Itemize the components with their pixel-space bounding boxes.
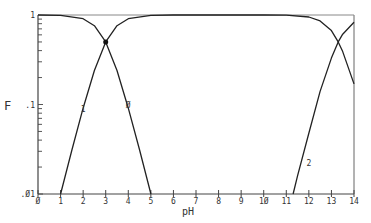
x-axis-title: pH xyxy=(182,206,194,217)
markers xyxy=(103,39,108,44)
x-tick-label: 1Ø xyxy=(259,196,269,206)
curve-label: 2 xyxy=(306,159,311,168)
curve-2 xyxy=(293,22,354,194)
y-tick-labels: .Ø1.11 xyxy=(21,11,36,199)
curve-label: Ø xyxy=(126,100,131,110)
y-axis-title: F xyxy=(4,99,11,113)
x-tick-label: 5 xyxy=(148,197,153,206)
x-tick-label: 3 xyxy=(103,197,108,206)
curve-labels: Ø12 xyxy=(81,100,312,169)
y-tick-label: .Ø1 xyxy=(21,189,36,199)
x-tick-label: 4 xyxy=(126,197,131,206)
x-tick-labels: Ø1234567891Ø11121314 xyxy=(36,196,359,206)
speciation-chart: Ø1234567891Ø11121314 .Ø1.11 Ø12 pH F xyxy=(0,0,371,223)
x-tick-label: 6 xyxy=(171,197,176,206)
x-tick-label: 12 xyxy=(304,197,314,206)
x-tick-label: 14 xyxy=(349,197,359,206)
curve-label: 1 xyxy=(81,105,86,114)
y-tick-label: 1 xyxy=(30,11,35,20)
x-tick-label: 11 xyxy=(281,197,291,206)
x-tick-label: 2 xyxy=(81,197,86,206)
x-tick-label: 7 xyxy=(194,197,199,206)
x-tick-label: 8 xyxy=(216,197,221,206)
x-tick-label: Ø xyxy=(36,196,41,206)
x-tick-label: 13 xyxy=(327,197,337,206)
y-tick-label: .1 xyxy=(25,101,35,110)
x-tick-label: 1 xyxy=(58,197,63,206)
curve-Ø xyxy=(38,15,151,194)
crossing-marker xyxy=(103,39,108,44)
x-tick-label: 9 xyxy=(239,197,244,206)
